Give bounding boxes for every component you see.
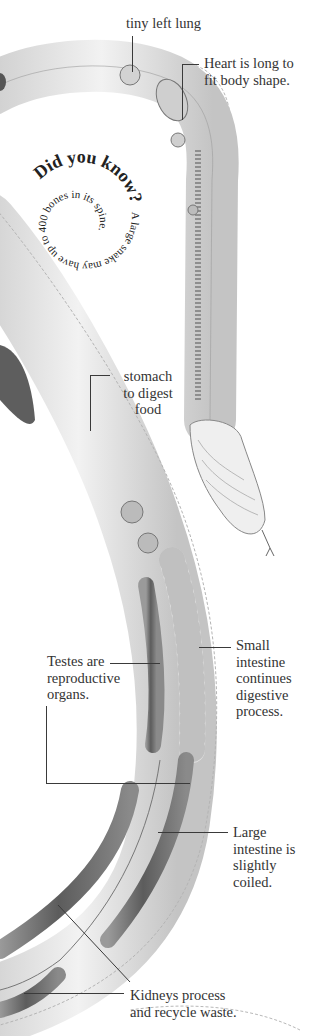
leader-kidneys-diagonal: [0, 0, 312, 1036]
